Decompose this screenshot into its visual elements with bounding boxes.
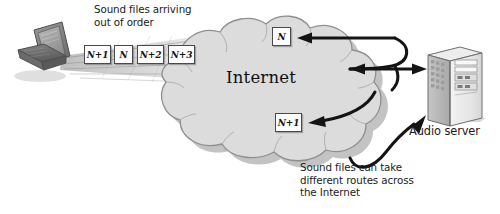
packet-box: N+1 <box>84 45 111 64</box>
tower-server-icon <box>428 47 486 126</box>
packet-box: N+3 <box>168 45 195 64</box>
packet-box: N+2 <box>137 45 164 64</box>
packet-box-in-cloud: N <box>272 27 291 46</box>
packet-box-in-cloud: N+1 <box>275 113 302 132</box>
audio-server-label: Audio server <box>409 124 480 138</box>
caption-different-routes: Sound files can take different routes ac… <box>300 161 414 199</box>
diagram-artwork <box>0 0 500 214</box>
diagram-canvas: Sound files arriving out of order Sound … <box>0 0 500 214</box>
caption-sound-files-arriving: Sound files arriving out of order <box>94 3 192 28</box>
packet-box: N <box>114 45 133 64</box>
laptop-icon <box>14 22 70 82</box>
internet-cloud-label: Internet <box>226 68 296 87</box>
